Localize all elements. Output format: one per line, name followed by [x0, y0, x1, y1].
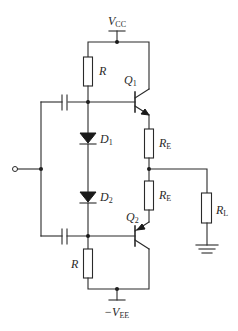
ground-icon: [196, 245, 218, 253]
input-terminal: [13, 167, 18, 172]
transistor-q1-npn: [135, 89, 149, 115]
circuit-diagram: VCC R Q1 RE RE RL: [0, 0, 238, 331]
resistor-r-top: [84, 57, 93, 86]
q1-label: Q1: [124, 73, 137, 88]
capacitor-top: [62, 95, 67, 110]
resistor-r-bottom: [84, 249, 93, 278]
vcc-node: [115, 40, 119, 44]
resistor-rl: [202, 193, 212, 223]
q2-base-node: [86, 234, 90, 238]
re-bottom-label: RE: [158, 188, 171, 203]
bottom-rail-wire: [88, 249, 149, 289]
wire-to-load: [149, 169, 207, 193]
resistor-re-top: [145, 129, 154, 158]
capacitor-bottom: [62, 229, 67, 244]
r-top-label: R: [98, 64, 107, 78]
resistor-re-bottom: [145, 181, 154, 210]
r-bottom-label: R: [70, 257, 79, 271]
d1-label: D1: [99, 132, 113, 147]
vee-supply: −VEE: [104, 289, 129, 320]
top-rail-wire: [88, 42, 149, 89]
d2-label: D2: [99, 190, 113, 205]
q1-emitter-arrow-icon: [141, 109, 149, 115]
transistor-q2-pnp: [135, 222, 149, 249]
vcc-supply: VCC: [108, 14, 126, 42]
re-top-label: RE: [158, 136, 171, 151]
q2-label: Q2: [126, 210, 139, 225]
diode-d1: [80, 133, 96, 144]
rl-label: RL: [215, 203, 228, 218]
vee-label: −VEE: [104, 305, 129, 320]
vcc-label: VCC: [108, 14, 126, 29]
diode-d2: [80, 192, 96, 203]
